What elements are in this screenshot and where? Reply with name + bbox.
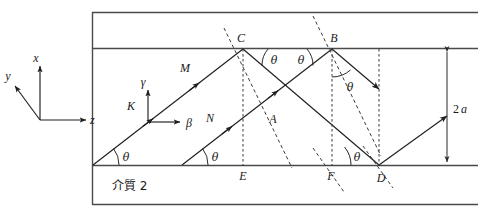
axis-beta-label: β [185,116,192,130]
axis-y-label: y [4,69,11,83]
theta-label-lower-left: θ [212,151,219,164]
angle-arc-D [345,147,352,165]
point-label-B: B [330,31,338,45]
axis-y-line [15,86,40,120]
theta-labels: θ θ θ θ θ θ [123,54,361,164]
ray-segment-D-exit [379,116,447,165]
waveguide-ray-diagram: x y z [0,0,486,218]
ray-label-M: M [179,61,191,75]
ray-path-secondary [182,49,379,165]
axis-z-label: z [89,113,95,127]
angle-arc-C-right [262,49,268,66]
ray-segment-incident-to-C [93,49,243,165]
ray-label-A: A [268,112,277,126]
medium-label: 介質 2 [112,178,147,193]
angle-arc-origin [114,149,120,166]
ray-label-N: N [205,111,215,125]
global-axes: x y z [4,51,95,127]
angle-arc-B-left [307,49,313,66]
point-label-F: F [326,169,335,183]
angle-arcs [114,49,352,165]
point-label-D: D [376,171,386,185]
angle-arc-lower-left [203,149,209,166]
local-axes-gamma-beta: γ β [141,75,192,130]
thickness-dimension: 2a [447,52,467,162]
axis-x-label: x [32,51,39,65]
slab-frame [92,13,478,205]
thickness-symbol: a [461,102,467,116]
ray-arrow-A [268,91,278,99]
figure-canvas: x y z [0,0,486,218]
theta-label-B-left: θ [298,54,305,67]
thickness-label: 2a [453,102,467,116]
point-label-C: C [237,31,246,45]
theta-label-B-lower: θ [347,81,354,94]
theta-label-D: θ [354,151,361,164]
ray-label-K: K [126,99,136,113]
ray-labels: K M N A [126,61,277,126]
theta-label-origin: θ [123,151,130,164]
ray-segment-incident-to-B [182,49,332,165]
point-label-E: E [238,169,247,183]
theta-label-C-right: θ [271,54,278,67]
ray-arrow-N [222,126,232,134]
axis-gamma-label: γ [141,75,146,89]
ray-arrow-M [189,83,199,91]
ray-segment-C-to-D [243,49,379,165]
thickness-value: 2 [453,102,459,116]
